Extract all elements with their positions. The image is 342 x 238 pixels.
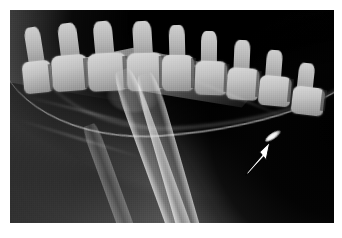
figure-caption [0,0,1,1]
vignette [10,10,334,223]
radiograph-plate [10,10,334,223]
radiograph-figure [0,0,342,238]
